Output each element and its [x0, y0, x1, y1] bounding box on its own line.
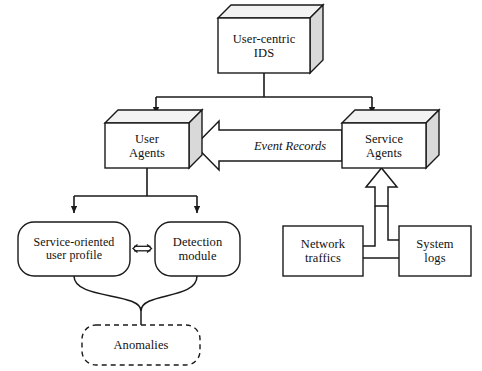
edge-to-anomalies-brace — [74, 276, 197, 325]
node-service-agents-shape[interactable] — [342, 110, 439, 168]
diagram-vector-layer — [0, 0, 482, 371]
diagram-canvas: User-centric IDS User Agents Service Age… — [0, 0, 482, 371]
edge-label-event-records: Event Records — [238, 139, 342, 154]
node-user-agents-shape[interactable] — [105, 110, 202, 168]
edge-sources-to-service-agents-block-arrow — [366, 168, 397, 206]
edge-sources-feeders — [363, 206, 399, 246]
node-ids-shape[interactable] — [218, 5, 323, 73]
node-system-logs-shape[interactable] — [399, 226, 471, 276]
node-anomalies-shape[interactable] — [82, 325, 200, 365]
edge-user-agents-branch — [74, 168, 197, 213]
node-detection-shape[interactable] — [155, 222, 240, 276]
node-user-profile-shape[interactable] — [18, 222, 130, 276]
edge-profile-detection-bidirectional — [133, 245, 152, 253]
edge-ids-branch — [156, 73, 372, 114]
node-network-traffics-shape[interactable] — [283, 226, 363, 276]
